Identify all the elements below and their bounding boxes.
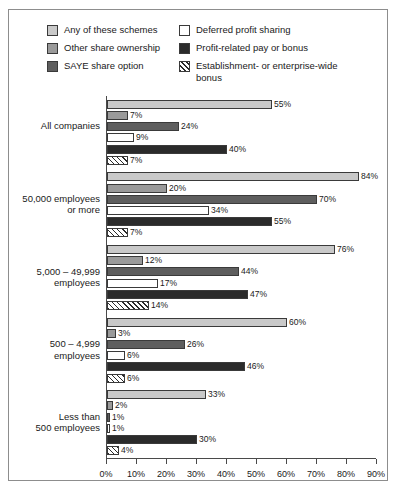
legend-label: Profit-related pay or bonus [196,42,308,54]
bar-row: 26% [107,340,377,349]
bar-value-label: 20% [169,183,186,194]
bar-group: 5,000 – 49,999 employees76%12%44%17%47%1… [106,245,376,310]
bar-value-label: 4% [121,445,133,456]
x-axis-tick [166,459,167,464]
bar [107,156,128,165]
bar-value-label: 14% [151,300,168,311]
bar-row: 20% [107,184,377,193]
bar-value-label: 84% [361,171,378,182]
bar-group: All companies55%7%24%9%40%7% [106,100,376,165]
bar [107,340,185,349]
bar-value-label: 44% [241,266,258,277]
y-axis-category-label: All companies [14,120,100,132]
bar-row: 7% [107,228,377,237]
bar-value-label: 2% [115,400,127,411]
bar-row: 9% [107,133,377,142]
legend-column-left: Any of these schemes Other share ownersh… [47,24,177,78]
legend-entry-profit-related-pay-or-bonus: Profit-related pay or bonus [179,42,379,57]
bar [107,172,359,181]
x-axis-tick [226,459,227,464]
bar [107,145,227,154]
bar-row: 1% [107,424,377,433]
x-axis-tick [136,459,137,464]
legend-label: Any of these schemes [64,24,157,36]
bar-value-label: 12% [145,255,162,266]
bar-value-label: 7% [130,155,142,166]
bar-row: 84% [107,172,377,181]
bar [107,245,335,254]
bar [107,435,197,444]
x-axis-tick [106,459,107,464]
x-axis-tick [376,459,377,464]
bar-row: 60% [107,318,377,327]
y-axis-category-label: Less than 500 employees [14,411,100,434]
bar-value-label: 34% [211,205,228,216]
bar [107,217,272,226]
bar-row: 12% [107,256,377,265]
legend-swatch-icon [179,25,190,36]
legend-label: Establishment- or enterprise-wide bonus [196,60,338,83]
legend-entry-other-share-ownership: Other share ownership [47,42,177,57]
legend-swatch-icon [47,43,58,54]
bar [107,195,317,204]
bar-value-label: 40% [229,144,246,155]
bar-row: 17% [107,279,377,288]
bar-row: 55% [107,217,377,226]
bar-row: 46% [107,362,377,371]
bar-row: 30% [107,435,377,444]
legend-label: SAYE share option [64,60,144,72]
bar-value-label: 1% [112,423,124,434]
bar-row: 33% [107,390,377,399]
bar-group: 500 – 4,999 employees60%3%26%6%46%6% [106,318,376,383]
bar [107,228,128,237]
x-axis-tick [316,459,317,464]
bar [107,374,125,383]
bar [107,256,143,265]
bar-row: 7% [107,156,377,165]
bar-value-label: 6% [127,350,139,361]
bar-row: 6% [107,351,377,360]
bar-row: 6% [107,374,377,383]
legend-swatch-icon [179,43,190,54]
bar [107,267,239,276]
bar-row: 14% [107,301,377,310]
bar-value-label: 7% [130,110,142,121]
x-axis-tick [256,459,257,464]
bar-value-label: 6% [127,373,139,384]
bar-value-label: 33% [208,389,225,400]
bar-row: 76% [107,245,377,254]
bar [107,111,128,120]
bar [107,318,287,327]
y-axis-category-label: 5,000 – 49,999 employees [14,266,100,289]
x-axis-tick-label: 60% [277,469,295,479]
legend-entry-saye-share-option: SAYE share option [47,60,177,75]
bar-value-label: 70% [319,194,336,205]
x-axis-tick [346,459,347,464]
bar [107,446,119,455]
legend-label: Other share ownership [64,42,160,54]
bar-row: 47% [107,290,377,299]
bar-row: 1% [107,413,377,422]
y-axis-category-label: 50,000 employees or more [14,193,100,216]
x-axis-tick-label: 50% [247,469,265,479]
x-axis-tick-label: 20% [157,469,175,479]
bar [107,424,110,433]
bar-row: 40% [107,145,377,154]
legend-entry-any-of-these-schemes: Any of these schemes [47,24,177,39]
bar [107,184,167,193]
x-axis-line [106,458,376,459]
bar [107,413,110,422]
legend-entry-establishment-or-enterprise-wide-bonus: Establishment- or enterprise-wide bonus [179,60,379,86]
plot-area: 0%10%20%30%40%50%60%70%80%90% All compan… [106,96,376,459]
bar-value-label: 76% [337,244,354,255]
bar [107,133,134,142]
x-axis-tick-label: 10% [127,469,145,479]
bar [107,401,113,410]
bar [107,279,158,288]
bar-value-label: 46% [247,361,264,372]
bar-row: 4% [107,446,377,455]
bar [107,301,149,310]
bar [107,329,116,338]
bar-value-label: 1% [112,412,124,423]
bar-value-label: 17% [160,278,177,289]
